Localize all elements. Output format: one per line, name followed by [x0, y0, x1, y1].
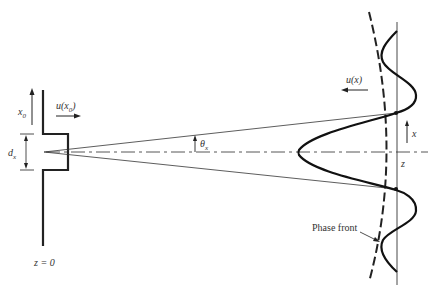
- u-x-label: u(x): [346, 74, 363, 86]
- u-x0-arrowhead-icon: [74, 114, 81, 119]
- dx-arrowhead-top-icon: [24, 135, 28, 141]
- theta-x-label: θx: [200, 138, 209, 152]
- theta-arrowhead-icon: [193, 135, 197, 141]
- dx-label: dx: [8, 147, 17, 161]
- phase-front-pointer: [360, 232, 376, 240]
- z-axis-label: z: [400, 158, 405, 169]
- u-x-arrowhead-icon: [341, 88, 348, 93]
- x0-label: x0: [17, 106, 26, 120]
- x-arrowhead-icon: [405, 120, 409, 126]
- z0-label: z = 0: [33, 257, 55, 268]
- x-label: x: [411, 128, 417, 139]
- aperture-screen: [43, 90, 68, 246]
- intersection-dot-lower: [394, 187, 398, 191]
- diffraction-pattern-curve: [298, 31, 416, 272]
- ray-lower: [44, 152, 396, 189]
- dx-arrowhead-bottom-icon: [24, 163, 28, 169]
- diagram-svg: x0 u(x0) dx θx u(x) x z z = 0 Phase fron…: [0, 0, 435, 293]
- ray-upper: [44, 113, 396, 152]
- diffraction-diagram: x0 u(x0) dx θx u(x) x z z = 0 Phase fron…: [0, 0, 435, 293]
- phase-front-label: Phase front: [312, 222, 357, 233]
- u-x0-label: u(x0): [56, 100, 76, 114]
- intersection-dot-upper: [394, 111, 398, 115]
- x0-arrowhead-icon: [30, 88, 35, 95]
